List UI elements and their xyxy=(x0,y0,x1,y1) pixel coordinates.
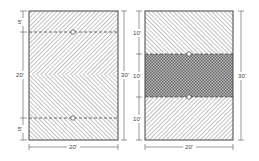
dim-label-width: 20' xyxy=(185,144,193,150)
hatch-lower xyxy=(29,75,118,140)
dim-label: 5' xyxy=(18,19,22,25)
hatch-top xyxy=(145,11,233,54)
dim-label: 10' xyxy=(133,73,141,79)
marker-circle xyxy=(187,52,191,56)
plan-diagram: 5' 20' 5' 30' 20' 10' xyxy=(0,0,259,161)
marker-circle xyxy=(71,30,75,34)
hatch-bottom xyxy=(145,97,233,140)
dim-label-width: 20' xyxy=(69,144,77,150)
crosshatch-middle xyxy=(145,54,233,97)
dim-label: 5' xyxy=(18,126,22,132)
left-panel: 5' 20' 5' 30' 20' xyxy=(14,11,130,151)
right-panel: 10' 10' 10' 30' 20' xyxy=(131,11,248,151)
dim-label: 10' xyxy=(133,116,141,122)
dim-label-height: 30' xyxy=(238,73,246,79)
marker-circle xyxy=(187,95,191,99)
dim-label: 10' xyxy=(133,30,141,36)
hatch-upper xyxy=(29,11,118,75)
marker-circle xyxy=(71,116,75,120)
dim-label: 20' xyxy=(16,72,24,78)
dim-label-height: 30' xyxy=(121,72,129,78)
